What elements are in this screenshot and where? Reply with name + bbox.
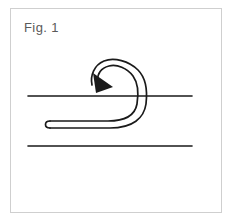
- direction-arrowhead: [93, 73, 113, 93]
- rope-tail-rounded-tip: [46, 121, 51, 128]
- figure-panel: Fig. 1: [0, 0, 235, 223]
- rope-loop-inner-stroke: [50, 59, 147, 128]
- knot-diagram: [0, 0, 235, 223]
